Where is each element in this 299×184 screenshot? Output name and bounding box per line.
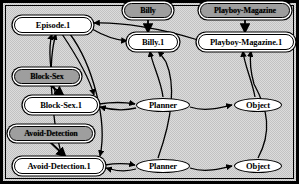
frame-network-diagram: Episode.1 Billy Playboy-Magazine Billy.1… xyxy=(0,0,299,184)
node-label: Avoid-Detection xyxy=(24,129,77,138)
node-label: Billy.1 xyxy=(142,37,164,47)
node-object-lower[interactable]: Object xyxy=(234,159,282,173)
node-label: Planner xyxy=(149,161,177,171)
node-planner-lower[interactable]: Planner xyxy=(136,159,190,173)
node-object-upper[interactable]: Object xyxy=(234,98,282,112)
node-billy[interactable]: Billy xyxy=(124,3,172,18)
node-label: Object xyxy=(246,161,270,171)
node-label: Billy xyxy=(140,6,156,15)
node-label: Object xyxy=(246,100,270,110)
node-avoid-detection-1[interactable]: Avoid-Detection.1 xyxy=(14,158,104,174)
node-label: Block-Sex xyxy=(30,72,63,81)
node-episode-1[interactable]: Episode.1 xyxy=(14,17,92,33)
node-playboy-magazine-1[interactable]: Playboy-Magazine.1 xyxy=(198,34,294,50)
node-avoid-detection[interactable]: Avoid-Detection xyxy=(9,126,93,141)
node-block-sex[interactable]: Block-Sex xyxy=(14,69,80,84)
node-label: Episode.1 xyxy=(36,20,70,30)
node-planner-upper[interactable]: Planner xyxy=(136,98,190,112)
node-block-sex-1[interactable]: Block-Sex.1 xyxy=(24,97,98,113)
node-label: Playboy-Magazine.1 xyxy=(210,37,282,47)
node-playboy-magazine[interactable]: Playboy-Magazine xyxy=(200,3,290,18)
node-label: Playboy-Magazine xyxy=(214,6,276,15)
node-label: Block-Sex.1 xyxy=(40,100,82,110)
node-label: Avoid-Detection.1 xyxy=(27,161,90,171)
node-label: Planner xyxy=(149,100,177,110)
node-billy-1[interactable]: Billy.1 xyxy=(128,34,178,50)
